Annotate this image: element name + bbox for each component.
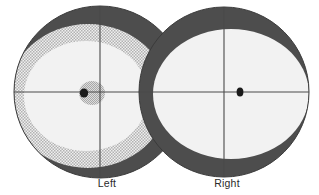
right-eye-field <box>139 7 309 177</box>
visual-field-diagram <box>0 0 319 195</box>
left-eye-label: Left <box>52 177 162 189</box>
right-fixation-dot <box>237 87 244 96</box>
right-eye-label: Right <box>172 177 282 189</box>
visual-field-chart: Left Right <box>0 0 319 195</box>
right-light-central-field <box>153 29 309 159</box>
left-fixation-dot <box>80 88 88 97</box>
